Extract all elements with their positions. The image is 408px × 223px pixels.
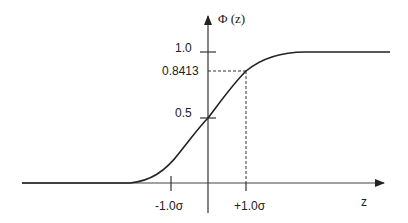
y-tick-label-1: 1.0 [175,41,192,55]
x-tick-label-pos: +1.0σ [234,199,266,213]
y-axis-label: Φ (z) [218,11,245,26]
cdf-chart: Φ (z) 1.0 0.8413 0.5 -1.0σ +1.0σ z [0,0,408,223]
y-tick-label-05: 0.5 [175,106,192,120]
x-axis-label: z [361,195,367,209]
x-tick-label-neg: -1.0σ [155,199,184,213]
y-tick-label-08413: 0.8413 [162,64,199,78]
